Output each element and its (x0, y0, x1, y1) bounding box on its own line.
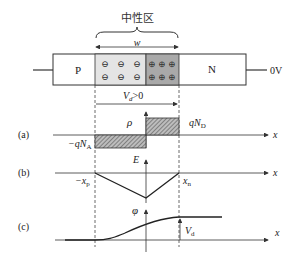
pos-charge-label: qND (189, 117, 206, 130)
svg-text:⊕: ⊕ (148, 72, 156, 82)
panel-c-tag: (c) (18, 221, 29, 233)
rho-label: ρ (126, 116, 132, 128)
neg-charge-label: −qNA (68, 138, 91, 151)
svg-text:⊕: ⊕ (168, 59, 176, 69)
svg-text:⊖: ⊖ (101, 59, 109, 69)
panel-b-x-label: x (272, 167, 278, 178)
neg-xp-label: −xp (75, 175, 90, 188)
n-label: N (208, 63, 216, 75)
svg-text:⊕: ⊕ (158, 72, 166, 82)
bias-label: Vd>0 (123, 90, 143, 103)
panel-a-x-label: x (272, 129, 278, 140)
potential-curve (65, 217, 222, 240)
svg-text:⊕: ⊕ (158, 59, 166, 69)
svg-text:⊕: ⊕ (148, 59, 156, 69)
positive-charge-block (146, 118, 179, 135)
phi-label: φ (132, 204, 138, 216)
width-label: w (134, 37, 141, 48)
p-label: P (75, 64, 81, 76)
vd-label: Vd (185, 225, 195, 238)
svg-text:⊖: ⊖ (133, 59, 141, 69)
pn-junction-diagram: 中性区 w P N 0V ⊖⊖⊖ ⊖⊖⊖ ⊕⊕⊕ ⊕⊕⊕ Vd>0 (a) x … (0, 0, 300, 265)
svg-text:⊖: ⊖ (133, 72, 141, 82)
svg-text:⊕: ⊕ (168, 72, 176, 82)
voltage-label: 0V (270, 65, 283, 76)
svg-text:⊖: ⊖ (117, 72, 125, 82)
e-label: E (132, 154, 139, 165)
svg-text:⊖: ⊖ (101, 72, 109, 82)
electric-field-curve (95, 173, 179, 198)
xn-label: xn (182, 175, 191, 188)
negative-charge-block (95, 135, 146, 148)
panel-a-tag: (a) (18, 129, 29, 141)
svg-text:⊖: ⊖ (117, 59, 125, 69)
neutral-region-title: 中性区 (121, 11, 154, 25)
panel-b-tag: (b) (18, 167, 30, 179)
panel-c-x-label: x (274, 227, 280, 238)
